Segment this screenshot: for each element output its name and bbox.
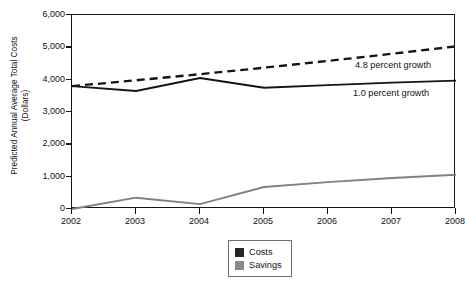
plot-area xyxy=(71,14,455,208)
x-tick-label: 2008 xyxy=(445,216,465,226)
chart-legend: CostsSavings xyxy=(228,240,292,277)
x-tick-mark xyxy=(135,208,136,214)
x-tick-label: 2006 xyxy=(317,216,337,226)
legend-item[interactable]: Costs xyxy=(235,246,282,258)
x-tick-label: 2007 xyxy=(381,216,401,226)
x-tick-mark xyxy=(391,208,392,214)
y-tick-label: 5,000 xyxy=(21,41,65,51)
x-tick-label: 2005 xyxy=(253,216,273,226)
y-tick-label: 6,000 xyxy=(21,9,65,19)
legend-item[interactable]: Savings xyxy=(235,259,282,271)
y-tick-mark xyxy=(66,176,72,177)
legend-swatch-icon xyxy=(235,261,244,270)
series-line-savings xyxy=(72,175,456,209)
y-tick-label: 2,000 xyxy=(21,138,65,148)
series-layer xyxy=(72,15,456,209)
annotation-growth-low: 1.0 percent growth xyxy=(353,88,429,98)
y-tick-mark xyxy=(66,111,72,112)
y-tick-label: 3,000 xyxy=(21,106,65,116)
y-tick-label: 4,000 xyxy=(21,74,65,84)
y-tick-mark xyxy=(66,14,72,15)
x-tick-mark xyxy=(263,208,264,214)
x-axis: 2002200320042005200620072008 xyxy=(71,208,455,236)
x-tick-label: 2002 xyxy=(61,216,81,226)
x-tick-label: 2003 xyxy=(125,216,145,226)
plot-inner xyxy=(72,15,454,207)
y-tick-label: 0 xyxy=(21,203,65,213)
legend-label: Savings xyxy=(249,259,282,271)
y-tick-mark xyxy=(66,79,72,80)
x-tick-mark xyxy=(455,208,456,214)
x-tick-mark xyxy=(71,208,72,214)
y-tick-label: 1,000 xyxy=(21,171,65,181)
y-axis-title-line1: Predicted Annual Average Total Costs xyxy=(10,36,19,175)
x-tick-mark xyxy=(327,208,328,214)
annotation-growth-high: 4.8 percent growth xyxy=(355,60,431,70)
legend-label: Costs xyxy=(249,246,273,258)
x-tick-mark xyxy=(199,208,200,214)
y-tick-mark xyxy=(66,46,72,47)
legend-swatch-icon xyxy=(235,248,244,257)
x-tick-label: 2004 xyxy=(189,216,209,226)
y-tick-mark xyxy=(66,143,72,144)
